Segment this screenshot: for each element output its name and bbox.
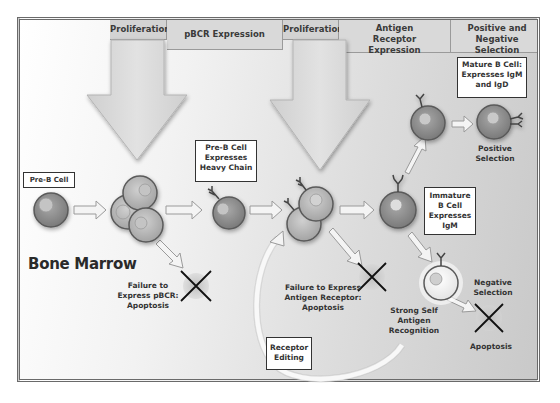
arrow-to-failure-pbcr xyxy=(156,240,183,268)
self-reactive-cell xyxy=(419,253,463,305)
annotation-line: Selection xyxy=(470,154,520,164)
label-pre-b-cell: Pre-B Cell xyxy=(23,172,75,188)
label-text: Receptor Editing xyxy=(270,343,308,362)
label-pre-b-heavy-chain: Pre-B Cell Expresses Heavy Chain xyxy=(195,140,257,182)
label-text: Mature B Cell: Expresses IgM and IgD xyxy=(462,60,523,89)
annotation-strong-self-antigen: Strong Self Antigen Recognition xyxy=(384,306,444,336)
big-down-arrow-proliferation-2 xyxy=(270,40,370,170)
annotation-line: Negative xyxy=(468,278,518,288)
arrow-to-failure-antigen-receptor xyxy=(329,228,362,266)
pre-b-cell xyxy=(34,193,68,227)
annotation-negative-selection: Negative Selection xyxy=(468,278,518,298)
annotation-failure-antigen-receptor: Failure to Express Antigen Receptor: Apo… xyxy=(282,283,364,313)
annotation-line: Antigen xyxy=(384,316,444,326)
arrow-proliferation-2-to-immature xyxy=(340,201,374,219)
annotation-line: Antigen Receptor: xyxy=(282,293,364,303)
arrow-proliferation-to-pre-b-heavy xyxy=(166,201,202,219)
big-down-arrow-proliferation-1 xyxy=(87,40,187,160)
annotation-apoptosis: Apoptosis xyxy=(466,342,516,352)
region-label-bone-marrow: Bone Marrow xyxy=(28,255,137,273)
immature-b-cell xyxy=(380,175,416,228)
arrow-positive-to-mature xyxy=(452,116,473,132)
proliferating-cell-cluster-2 xyxy=(284,177,333,241)
annotation-line: Positive xyxy=(470,144,520,154)
arrow-immature-to-positive xyxy=(405,136,426,174)
proliferating-cell-cluster-1 xyxy=(111,176,163,242)
annotation-line: Failure to xyxy=(112,281,184,291)
label-mature-b-cell: Mature B Cell: Expresses IgM and IgD xyxy=(457,57,527,98)
annotation-line: Apoptosis xyxy=(470,342,512,351)
label-text: Pre-B Cell Expresses Heavy Chain xyxy=(200,143,253,172)
pre-b-cell-heavy-chain xyxy=(208,186,245,229)
annotation-line: Strong Self xyxy=(384,306,444,316)
label-immature-b-cell: Immature B Cell Expresses IgM xyxy=(424,187,476,235)
annotation-line: Apoptosis xyxy=(282,303,364,313)
annotation-failure-pbcr: Failure to Express pBCR: Apoptosis xyxy=(112,281,184,311)
label-text: Immature B Cell Expresses IgM xyxy=(429,191,472,230)
annotation-line: Selection xyxy=(468,288,518,298)
annotation-positive-selection: Positive Selection xyxy=(470,144,520,164)
positive-selection-cell xyxy=(411,94,445,140)
arrow-immature-to-strong-self xyxy=(408,232,432,262)
apoptotic-cell-pbcr xyxy=(181,271,211,301)
annotation-line: Recognition xyxy=(384,326,444,336)
region-label-text: Bone Marrow xyxy=(28,255,137,273)
annotation-line: Failure to Express xyxy=(282,283,364,293)
mature-b-cell xyxy=(477,105,523,139)
annotation-line: Express pBCR: xyxy=(112,291,184,301)
label-receptor-editing: Receptor Editing xyxy=(266,337,312,370)
arrow-pre-b-to-proliferation xyxy=(74,201,106,219)
arrow-pre-b-heavy-to-proliferation-2 xyxy=(250,201,282,219)
apoptotic-cell-negative-selection xyxy=(475,304,503,332)
label-text: Pre-B Cell xyxy=(30,176,69,184)
annotation-line: Apoptosis xyxy=(112,301,184,311)
